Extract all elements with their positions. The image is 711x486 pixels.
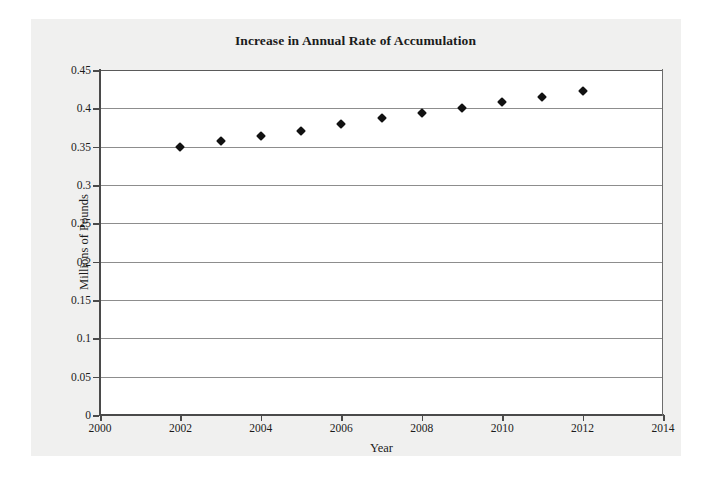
x-axis-tick	[422, 415, 424, 421]
gridline	[100, 108, 663, 109]
y-axis-tick	[93, 147, 99, 149]
x-axis-tick	[583, 415, 585, 421]
x-axis-tick	[261, 415, 263, 421]
gridline	[100, 223, 663, 224]
x-axis-tick	[502, 415, 504, 421]
plot-area	[100, 70, 663, 415]
data-point	[497, 97, 507, 107]
x-axis-title: Year	[100, 441, 663, 456]
data-point	[377, 113, 387, 123]
chart-title: Increase in Annual Rate of Accumulation	[0, 33, 711, 49]
y-axis-tick	[93, 377, 99, 379]
y-axis-title: Millions of Pounds	[77, 142, 92, 342]
x-axis-tick-label: 2008	[392, 422, 452, 434]
y-axis-line	[99, 69, 101, 416]
y-axis-tick-label: 0.4	[27, 102, 91, 114]
x-axis-tick	[663, 415, 665, 421]
y-axis-tick	[93, 338, 99, 340]
data-point	[457, 103, 467, 113]
y-axis-tick-label: 0.05	[27, 371, 91, 383]
y-axis-tick	[93, 300, 99, 302]
y-axis-tick-label: 0.45	[27, 64, 91, 76]
gridline	[100, 300, 663, 301]
data-point	[417, 108, 427, 118]
x-axis-tick-label: 2010	[472, 422, 532, 434]
x-axis-tick-label: 2000	[70, 422, 130, 434]
x-axis-tick-label: 2006	[311, 422, 371, 434]
data-point	[537, 92, 547, 102]
y-axis-tick-label: 0	[27, 409, 91, 421]
y-axis-tick	[93, 223, 99, 225]
x-axis-tick-label: 2002	[150, 422, 210, 434]
data-point	[336, 119, 346, 129]
y-axis-tick	[93, 415, 99, 417]
x-axis-tick-label: 2012	[553, 422, 613, 434]
plot-right-border	[662, 69, 663, 416]
chart-page: Increase in Annual Rate of Accumulation …	[0, 0, 711, 486]
x-axis-tick	[341, 415, 343, 421]
gridline	[100, 185, 663, 186]
x-axis-tick-label: 2014	[633, 422, 693, 434]
x-axis-line	[99, 414, 664, 416]
gridline	[100, 377, 663, 378]
data-point	[256, 131, 266, 141]
x-axis-tick	[180, 415, 182, 421]
x-axis-tick-label: 2004	[231, 422, 291, 434]
data-point	[175, 142, 185, 152]
data-point	[578, 87, 588, 97]
gridline	[100, 262, 663, 263]
gridline	[100, 338, 663, 339]
gridline	[100, 70, 663, 71]
data-point	[296, 126, 306, 136]
x-axis-tick	[100, 415, 102, 421]
y-axis-tick	[93, 108, 99, 110]
y-axis-tick	[93, 70, 99, 72]
data-point	[216, 136, 226, 146]
y-axis-tick	[93, 262, 99, 264]
y-axis-tick	[93, 185, 99, 187]
